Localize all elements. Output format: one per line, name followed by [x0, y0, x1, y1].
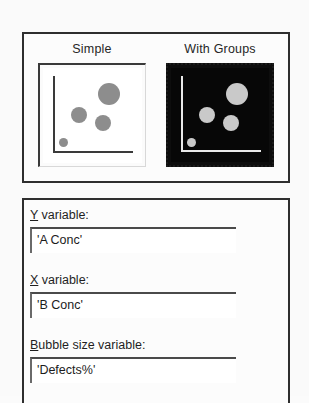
field-group-y-variable: Y variable: 'A Conc' — [30, 207, 236, 253]
gallery-item-with-groups-thumbnail[interactable] — [166, 63, 274, 167]
thumbnail-bubble — [187, 138, 196, 147]
x-variable-label-rest: variable: — [38, 273, 89, 287]
thumbnail-y-axis — [181, 76, 183, 152]
bubble-size-variable-label-rest: ubble size variable: — [38, 338, 145, 352]
y-variable-accel-key: Y — [30, 208, 38, 222]
thumbnail-bubble — [59, 138, 68, 147]
field-group-bubble-size-variable: Bubble size variable: 'Defects%' — [30, 337, 236, 383]
thumbnail-bubble — [95, 115, 111, 131]
gallery-item-simple-thumbnail[interactable] — [38, 63, 146, 167]
thumbnail-bubble — [71, 107, 87, 123]
thumbnail-x-axis — [181, 150, 261, 152]
thumbnail-bubble — [199, 107, 215, 123]
bubble-size-variable-input[interactable]: 'Defects%' — [30, 357, 236, 383]
y-variable-input[interactable]: 'A Conc' — [30, 227, 236, 253]
thumbnail-bubble — [223, 115, 239, 131]
y-variable-label: Y variable: — [30, 207, 236, 224]
bubble-size-variable-label: Bubble size variable: — [30, 337, 236, 354]
gallery-row: Simple With Groups — [24, 34, 288, 181]
plot-type-gallery: Simple With Groups — [22, 32, 290, 183]
thumbnail-y-axis — [53, 76, 55, 152]
gallery-item-with-groups[interactable]: With Groups — [160, 40, 280, 178]
y-variable-label-rest: variable: — [38, 208, 89, 222]
variable-fields-panel: Y variable: 'A Conc' X variable: 'B Conc… — [22, 198, 290, 403]
gallery-item-simple-label: Simple — [32, 40, 152, 59]
thumbnail-canvas-simple — [43, 68, 142, 163]
thumbnail-canvas-with-groups — [171, 68, 269, 162]
thumbnail-bubble — [226, 83, 248, 105]
gallery-item-simple[interactable]: Simple — [32, 40, 152, 178]
thumbnail-bubble — [98, 83, 120, 105]
x-variable-input[interactable]: 'B Conc' — [30, 292, 236, 318]
thumbnail-x-axis — [53, 151, 133, 153]
x-variable-label: X variable: — [30, 272, 236, 289]
gallery-item-with-groups-label: With Groups — [160, 40, 280, 59]
field-group-x-variable: X variable: 'B Conc' — [30, 272, 236, 318]
